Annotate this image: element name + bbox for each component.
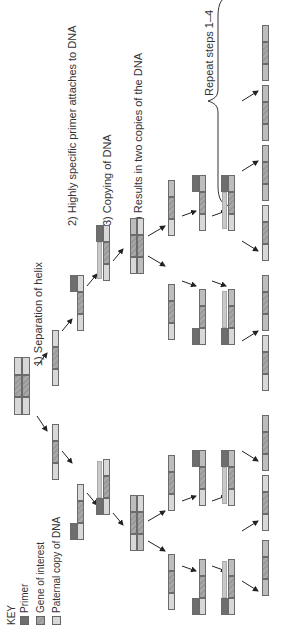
- key-primer-swatch: [20, 616, 29, 625]
- step-3-label: 3) Copying of DNA: [101, 134, 113, 226]
- copy-arrow: [97, 461, 102, 498]
- primer: [70, 523, 77, 540]
- key-gene-swatch: [36, 616, 45, 625]
- repeat-label: Repeat steps 1–4: [203, 10, 215, 96]
- key-paternal-label: Paternal copy of DNA: [51, 517, 62, 613]
- pcr-diagram: 1) Separation of helix 2) Highly specifi…: [0, 0, 304, 631]
- step-1-label: 1) Separation of helix: [32, 262, 44, 366]
- primer: [70, 275, 77, 292]
- key-title: KEY: [6, 605, 17, 625]
- key-gene-label: Gene of interest: [35, 542, 46, 613]
- step-4-label: 4) Results in two copies of the DNA: [132, 53, 144, 226]
- step-2-label: 2) Highly specific primer attaches to DN…: [66, 25, 78, 226]
- copy-arrow: [97, 242, 102, 279]
- key-paternal-swatch: [52, 616, 61, 625]
- key-primer-label: Primer: [19, 584, 30, 613]
- arrows-layer: [0, 0, 304, 631]
